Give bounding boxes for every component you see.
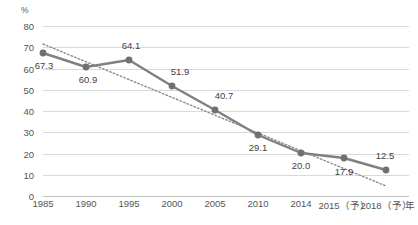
data-label: 60.9 (79, 74, 98, 85)
x-tick-label: 1990 (75, 198, 96, 209)
data-point-marker (212, 107, 219, 114)
data-label: 67.3 (35, 60, 54, 71)
data-label: 12.5 (376, 150, 395, 161)
data-point-marker (298, 150, 305, 157)
plot-area (0, 0, 418, 225)
x-tick-label: 2005 (204, 198, 225, 209)
x-tick-label: 2010 (247, 198, 268, 209)
data-label: 20.0 (292, 160, 311, 171)
data-point-marker (169, 83, 176, 90)
x-tick-label: 2000 (161, 198, 182, 209)
data-label: 40.7 (215, 90, 234, 101)
data-point-marker (255, 132, 262, 139)
data-point-marker (126, 57, 133, 64)
data-point-marker (383, 167, 390, 174)
data-label: 51.9 (171, 66, 190, 77)
x-tick-label: 1995 (118, 198, 139, 209)
data-label: 17.9 (335, 166, 354, 177)
x-axis-unit-label: 年 (405, 198, 415, 212)
data-point-marker (40, 50, 47, 57)
x-tick-label: 2014 (290, 198, 311, 209)
data-point-marker (341, 155, 348, 162)
data-label: 64.1 (122, 40, 141, 51)
data-label: 29.1 (249, 142, 268, 153)
line-chart: % 80 70 60 50 40 30 20 10 0 67.3 60.9 64… (0, 0, 418, 225)
x-tick-label: 1985 (32, 198, 53, 209)
data-point-marker (83, 64, 90, 71)
x-tick-label: 2018（予） (360, 198, 411, 212)
